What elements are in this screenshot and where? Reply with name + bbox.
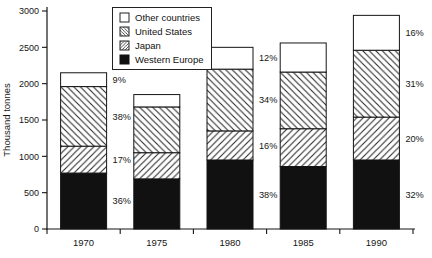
percent-label-western-europe-1970: 36% bbox=[113, 196, 131, 206]
x-category-label-1990: 1990 bbox=[366, 237, 387, 248]
y-tick-label: 1500 bbox=[19, 115, 39, 125]
bar-segment-united-states-1970 bbox=[61, 87, 107, 147]
percent-label-western-europe-1990: 32% bbox=[405, 190, 423, 200]
legend: Other countries United States Japan West… bbox=[112, 7, 212, 70]
percent-label-other-countries-1990: 16% bbox=[405, 28, 423, 38]
percent-label-other-countries-1970: 9% bbox=[113, 75, 126, 85]
legend-swatch-other-countries-icon bbox=[119, 12, 130, 23]
legend-label-other-countries: Other countries bbox=[135, 12, 200, 23]
bar-segment-other-countries-1985 bbox=[280, 43, 326, 72]
chart-canvas: 05001000150020002500300036%17%38%9%19701… bbox=[0, 0, 432, 258]
legend-swatch-united-states-icon bbox=[119, 26, 130, 37]
bar-segment-united-states-1990 bbox=[353, 50, 399, 117]
y-tick-label: 1000 bbox=[19, 152, 39, 162]
bar-segment-japan-1985 bbox=[280, 129, 326, 167]
legend-item-united-states: United States bbox=[119, 25, 203, 39]
y-tick-label: 3000 bbox=[19, 6, 39, 16]
legend-label-japan: Japan bbox=[135, 40, 161, 51]
legend-swatch-western-europe-icon bbox=[119, 54, 130, 65]
y-axis-title: Thousand tonnes bbox=[1, 83, 12, 157]
bar-segment-western-europe-1970 bbox=[61, 173, 107, 229]
y-tick-label: 2500 bbox=[19, 43, 39, 53]
legend-item-japan: Japan bbox=[119, 39, 203, 53]
legend-item-other-countries: Other countries bbox=[119, 11, 203, 25]
bar-segment-japan-1975 bbox=[134, 153, 180, 179]
legend-label-united-states: United States bbox=[135, 26, 192, 37]
bar-segment-western-europe-1990 bbox=[353, 160, 399, 229]
bar-segment-western-europe-1975 bbox=[134, 179, 180, 229]
bar-segment-other-countries-1975 bbox=[134, 95, 180, 107]
percent-label-other-countries-1980: 12% bbox=[259, 53, 277, 63]
x-category-label-1980: 1980 bbox=[219, 237, 240, 248]
legend-label-western-europe: Western Europe bbox=[135, 54, 203, 65]
y-tick-label: 500 bbox=[24, 188, 39, 198]
percent-label-united-states-1970: 38% bbox=[113, 112, 131, 122]
bar-segment-japan-1970 bbox=[61, 146, 107, 173]
y-tick-label: 2000 bbox=[19, 79, 39, 89]
x-category-label-1970: 1970 bbox=[73, 237, 94, 248]
percent-label-western-europe-1980: 38% bbox=[259, 190, 277, 200]
percent-label-united-states-1980: 34% bbox=[259, 95, 277, 105]
bar-segment-other-countries-1970 bbox=[61, 73, 107, 87]
percent-label-japan-1980: 16% bbox=[259, 141, 277, 151]
percent-label-japan-1970: 17% bbox=[113, 155, 131, 165]
bar-segment-western-europe-1980 bbox=[207, 160, 253, 229]
bar-segment-japan-1990 bbox=[353, 117, 399, 160]
bar-segment-other-countries-1990 bbox=[353, 15, 399, 50]
bar-segment-western-europe-1985 bbox=[280, 167, 326, 229]
legend-item-western-europe: Western Europe bbox=[119, 52, 203, 66]
x-category-label-1985: 1985 bbox=[293, 237, 314, 248]
percent-label-united-states-1990: 31% bbox=[405, 79, 423, 89]
bar-segment-united-states-1980 bbox=[207, 69, 253, 131]
x-category-label-1975: 1975 bbox=[146, 237, 167, 248]
bar-segment-japan-1980 bbox=[207, 131, 253, 160]
bar-segment-united-states-1985 bbox=[280, 72, 326, 129]
bar-segment-united-states-1975 bbox=[134, 107, 180, 153]
legend-swatch-japan-icon bbox=[119, 40, 130, 51]
bar-segment-other-countries-1980 bbox=[207, 47, 253, 69]
y-tick-label: 0 bbox=[34, 224, 39, 234]
stacked-bar-chart-figure: 05001000150020002500300036%17%38%9%19701… bbox=[0, 0, 432, 258]
percent-label-japan-1990: 20% bbox=[405, 134, 423, 144]
